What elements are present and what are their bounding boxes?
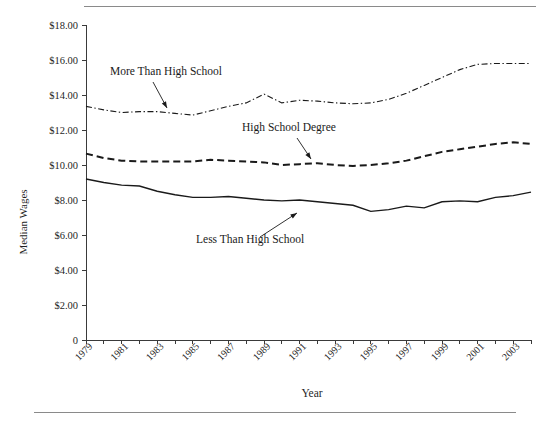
series-annotation-label: More Than High School xyxy=(110,65,222,78)
annotation-arrowhead xyxy=(305,152,311,159)
x-tick-label: 2003 xyxy=(500,341,522,363)
figure-container: 0$2.00$4.00$6.00$8.00$10.00$12.00$14.00$… xyxy=(0,0,549,424)
x-axis: 1979198119831985198719891991199319951997… xyxy=(73,340,531,362)
x-tick-label: 1993 xyxy=(322,341,344,363)
figure-bottom-rule xyxy=(34,412,516,413)
x-tick-label: 1997 xyxy=(393,341,415,363)
x-tick-label: 1987 xyxy=(215,341,237,363)
x-tick-label: 1991 xyxy=(286,341,308,363)
y-tick-label: $8.00 xyxy=(54,195,78,206)
x-axis-title: Year xyxy=(301,387,322,399)
x-tick-label: 1981 xyxy=(108,341,130,363)
annotation-arrowhead xyxy=(290,213,297,219)
y-axis-title: Median Wages xyxy=(17,189,29,254)
x-tick-label: 1983 xyxy=(144,341,166,363)
y-tick-label: $16.00 xyxy=(49,55,78,66)
x-tick-label: 1995 xyxy=(357,341,379,363)
x-tick-label: 1999 xyxy=(429,341,451,363)
y-tick-label: $18.00 xyxy=(49,20,78,31)
series-annotations: More Than High SchoolHigh School DegreeL… xyxy=(110,65,336,246)
y-tick-label: $14.00 xyxy=(49,90,78,101)
x-tick-label: 1989 xyxy=(251,341,273,363)
y-tick-label: $6.00 xyxy=(54,230,78,241)
y-tick-label: $10.00 xyxy=(49,160,78,171)
line-chart: 0$2.00$4.00$6.00$8.00$10.00$12.00$14.00$… xyxy=(0,0,549,424)
x-tick-label: 1985 xyxy=(179,341,201,363)
y-tick-label: 0 xyxy=(73,335,78,346)
series-annotation-label: High School Degree xyxy=(242,121,336,134)
x-tick-label: 2001 xyxy=(464,341,486,363)
y-tick-label: $12.00 xyxy=(49,125,78,136)
y-tick-label: $4.00 xyxy=(54,265,78,276)
y-axis: 0$2.00$4.00$6.00$8.00$10.00$12.00$14.00$… xyxy=(49,20,86,346)
series-annotation-label: Less Than High School xyxy=(196,233,304,246)
series-lines xyxy=(86,64,531,212)
series-line xyxy=(86,179,531,211)
y-tick-label: $2.00 xyxy=(54,300,78,311)
figure-top-rule xyxy=(84,6,536,7)
annotation-arrowhead xyxy=(162,101,167,108)
